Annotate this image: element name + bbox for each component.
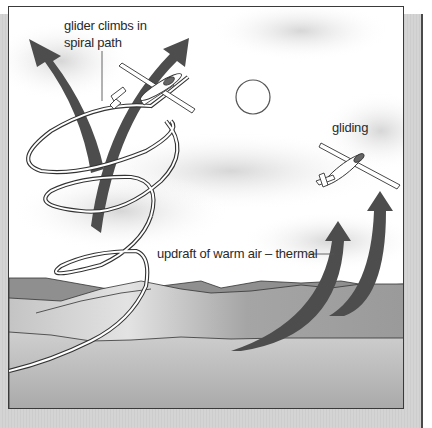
hills [9, 278, 404, 409]
sun-icon [236, 80, 270, 114]
label-gliding: gliding [332, 119, 368, 136]
scene-svg [9, 7, 404, 409]
label-spiral-path: glider climbs in spiral path [64, 17, 147, 51]
label-thermal: updraft of warm air – thermal [157, 245, 317, 262]
illustration-frame [8, 6, 404, 409]
